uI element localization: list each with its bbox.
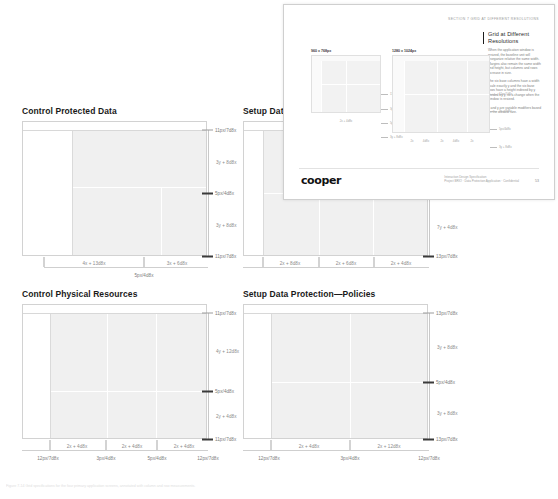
footer-line: Project BRIO · Data Protection Applicati…: [444, 179, 519, 183]
span-label: 2x + 12d8x: [377, 444, 400, 449]
mini-column-divider: [346, 61, 347, 112]
wireframe-sidebar: [244, 314, 272, 438]
panel-title: Control Physical Resources: [22, 289, 237, 299]
tick-label: 12px/7d8x: [197, 456, 219, 461]
mini-content: [404, 61, 489, 132]
tick-label: 5px/4d8x: [215, 191, 234, 196]
figure-caption: Figure 7-14 Grid specifications for the …: [6, 484, 552, 489]
cooper-logo: cooper: [301, 174, 341, 187]
span-label: 3y + 8d8x: [216, 222, 237, 227]
mini-column-divider: [321, 61, 322, 112]
tick-label: 12px/7d8x: [37, 456, 59, 461]
tick-label: 5px/4d8x: [134, 273, 153, 278]
wireframe-content: [272, 314, 427, 438]
span-label: 2x + 4d8x: [340, 119, 353, 123]
horizontal-measure-rail: [22, 450, 208, 451]
tick-label: 11px/7d8x: [215, 128, 236, 133]
tick-label: 11px/7d8x: [499, 92, 512, 96]
span-label: 2x + 4d8x: [391, 261, 412, 266]
inset-document-page[interactable]: SECTION 7 GRID AT DIFFERENT RESOLUTIONS …: [283, 4, 555, 200]
grid-diagram: 11px/7d8x 5px/4d8x 11px/7d8x 3y + 8d8x 3…: [22, 121, 237, 281]
span-label: 2x: [410, 139, 413, 143]
tick-mark-icon: [202, 390, 213, 392]
mini-wireframe: [311, 55, 381, 113]
wireframe-sidebar: [244, 131, 264, 255]
span-label: 2x + 4d8x: [299, 444, 320, 449]
tick-mark-icon: [490, 111, 497, 112]
inset-mini-diagram-1280: 1280 x 1024px 11px/7d8x 3y + 8d8x 5px/4d…: [392, 49, 502, 133]
tick-label: 5px/4d8x: [147, 456, 166, 461]
mini-row-divider: [321, 84, 380, 85]
tick-mark-icon: [50, 440, 51, 450]
tick-mark-icon: [490, 94, 497, 95]
grid-column-divider: [161, 187, 162, 255]
tick-label: 3y + 8d8x: [499, 109, 512, 113]
tick-mark-icon: [202, 130, 213, 131]
tick-mark-icon: [202, 438, 213, 440]
specification-sheet: Control Protected Data 11px/7d8x 5px/4d8…: [0, 0, 558, 499]
span-label: 3y + 8d8x: [437, 345, 458, 350]
tick-mark-icon: [44, 257, 45, 267]
tick-mark-icon: [381, 123, 388, 124]
span-label: 7y + 4d8x: [437, 225, 458, 230]
mini-column-divider: [404, 61, 405, 132]
wireframe-content: [73, 131, 206, 255]
span-label: 2x + 4d8x: [122, 444, 143, 449]
span-label: 4x + 13d8x: [82, 261, 105, 266]
tick-mark-icon: [319, 257, 320, 267]
panel-control-protected-data: Control Protected Data 11px/7d8x 5px/4d8…: [22, 106, 237, 281]
horizontal-measure-rail: [243, 450, 429, 451]
span-label: 4d8x: [453, 139, 459, 143]
mini-diagram-title: 1280 x 1024px: [392, 49, 502, 53]
tick-mark-icon: [202, 192, 213, 194]
span-label: 2x: [440, 139, 443, 143]
horizontal-measure-rail: [44, 267, 208, 268]
mini-column-divider: [437, 61, 438, 132]
inset-footer-text: Interaction Design Specification Project…: [444, 175, 519, 183]
panel-title: Setup Data Protection—Policies: [243, 289, 458, 299]
tick-mark-icon: [263, 257, 264, 267]
wireframe-frame: [22, 304, 207, 439]
vertical-ticks: 13px/7d8x 5px/4d8x 13px/7d8x 3y + 8d8x 3…: [423, 313, 483, 439]
tick-mark-icon: [202, 313, 213, 314]
span-label: 4d8x: [423, 139, 429, 143]
tick-mark-icon: [157, 440, 158, 450]
inset-mini-diagram-960: 960 x 768px 11px/7d8x 3y + 8d8x 5px/4d8x…: [311, 49, 399, 113]
page-number: 53: [535, 179, 539, 183]
wireframe-titlebar: [23, 122, 206, 131]
tick-mark-icon: [144, 257, 145, 267]
inset-heading: Grid at Different Resolutions: [488, 31, 541, 44]
span-label: 2x + 8d8x: [280, 261, 301, 266]
tick-mark-icon: [490, 147, 497, 148]
tick-label: 13px/7d8x: [436, 254, 458, 259]
grid-row-divider: [51, 391, 206, 392]
wireframe-titlebar: [23, 305, 206, 314]
panel-title: Control Protected Data: [22, 106, 237, 116]
tick-mark-icon: [271, 440, 272, 450]
tick-label: 11px/7d8x: [215, 311, 236, 316]
heading-rule: [483, 32, 484, 44]
span-label: 2x + 4d8x: [67, 444, 88, 449]
tick-mark-icon: [350, 440, 351, 450]
tick-mark-icon: [381, 94, 388, 95]
tick-label: 13px/7d8x: [436, 311, 458, 316]
grid-row-divider: [73, 187, 206, 188]
tick-mark-icon: [490, 129, 497, 130]
span-label: 2x + 6d8x: [336, 261, 357, 266]
mini-wireframe: [392, 55, 490, 133]
span-label: 2x: [470, 139, 473, 143]
wireframe-sidebar: [23, 131, 73, 255]
wireframe-frame: [243, 304, 428, 439]
tick-mark-icon: [202, 255, 213, 257]
tick-label: 5px/4d8x: [436, 380, 455, 385]
grid-column-divider: [107, 314, 108, 438]
span-label: 3x + 6d8x: [167, 261, 188, 266]
tick-mark-icon: [381, 109, 388, 110]
tick-mark-icon: [423, 438, 434, 440]
inset-sheet: SECTION 7 GRID AT DIFFERENT RESOLUTIONS …: [289, 9, 549, 195]
span-label: 2x + 4d8x: [174, 444, 195, 449]
grid-column-divider: [350, 314, 351, 438]
tick-mark-icon: [423, 313, 434, 314]
tick-label: 3px/4d8x: [340, 456, 359, 461]
tick-mark-icon: [381, 137, 388, 138]
